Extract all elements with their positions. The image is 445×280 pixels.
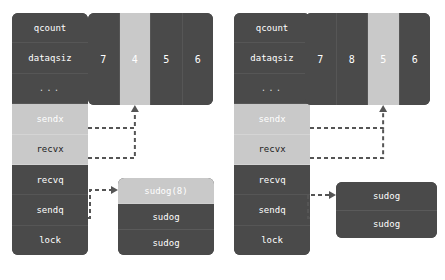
sendq-arrowhead [329, 191, 336, 199]
sendq-arrowhead [111, 186, 118, 194]
pointer-arrows [0, 0, 222, 280]
sendx-pointer-path [310, 112, 383, 128]
sendq-pointer-path [88, 190, 114, 218]
sendx-arrowhead [131, 105, 139, 112]
panel-after: qcountdataqsiz...sendxrecvxrecvqsendqloc… [222, 0, 444, 280]
pointer-arrows [222, 0, 444, 280]
recvx-pointer-path [310, 128, 383, 158]
sendx-arrowhead [379, 105, 387, 112]
sendx-pointer-path [88, 112, 135, 128]
diagram-canvas: qcountdataqsiz...sendxrecvxrecvqsendqloc… [0, 0, 445, 280]
recvx-pointer-path [88, 128, 135, 158]
sendq-pointer-path [308, 195, 332, 218]
panel-before: qcountdataqsiz...sendxrecvxrecvqsendqloc… [0, 0, 222, 280]
